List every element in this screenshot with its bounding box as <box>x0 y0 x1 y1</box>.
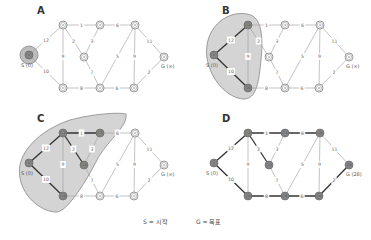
edge-weight-text: 5 <box>301 162 304 167</box>
start-label: S (0) <box>206 62 218 68</box>
edge-weight: 11 <box>146 38 154 45</box>
edge-weight-text: 11 <box>332 147 338 152</box>
edge-weight-text: 8 <box>265 86 268 91</box>
edge-weight: 12 <box>227 145 235 152</box>
node-b1: 10 <box>59 192 67 200</box>
goal-label: G (28) <box>346 171 362 177</box>
edge-weight-text: 7 <box>91 178 94 183</box>
edge-weight-text: 3 <box>276 39 279 44</box>
node-m: ∞ <box>265 53 273 61</box>
edge-weight: 3 <box>89 38 95 45</box>
node-n3: 19 <box>316 129 324 137</box>
node-value: 18 <box>283 194 287 198</box>
node-value: ∞ <box>62 23 65 27</box>
node-value: ∞ <box>134 131 137 135</box>
node-b1: 10 <box>244 192 252 200</box>
node-value: 10 <box>246 194 250 198</box>
panel-label: C <box>37 113 44 124</box>
start-label: S (0) <box>206 170 218 176</box>
node-value: ∞ <box>99 86 102 90</box>
edge-weight-text: 2 <box>148 70 151 75</box>
node-n2: ∞ <box>96 21 104 29</box>
node-m: 14 <box>80 161 88 169</box>
node-value: ∞ <box>62 86 65 90</box>
edge-weight: 8 <box>79 85 85 92</box>
node-s: 0 <box>210 159 218 167</box>
edge-weight-text: 7 <box>276 70 279 75</box>
edge-weight-text: 9 <box>318 162 321 167</box>
node-n1: 12 <box>59 129 67 137</box>
edge-weight-text: 12 <box>43 38 49 43</box>
edge-weight-text: 9 <box>247 54 250 59</box>
edge-weight: 5 <box>300 161 306 168</box>
node-n1: 12 <box>244 21 252 29</box>
edge-weight: 5 <box>115 53 121 60</box>
edge-weight: 9 <box>132 53 138 60</box>
edge-weight-text: 6 <box>116 86 119 91</box>
node-value: ∞ <box>348 55 351 59</box>
node-s: 0 <box>25 51 33 59</box>
edge-weight-text: 12 <box>228 146 234 151</box>
edge-weight-text: 9 <box>62 54 65 59</box>
edge-weight: 6 <box>299 193 305 200</box>
node-n2: 13 <box>96 129 104 137</box>
edge-weight-text: 8 <box>265 194 268 199</box>
node-value: ∞ <box>83 55 86 59</box>
goal-label: G (∞) <box>161 171 175 177</box>
edge-weight-text: 8 <box>80 194 83 199</box>
edge-weight-text: 8 <box>80 86 83 91</box>
node-m: 14 <box>265 161 273 169</box>
node-value: ∞ <box>319 23 322 27</box>
edge-weight-text: 9 <box>133 162 136 167</box>
edge-weight-text: 10 <box>228 177 234 182</box>
edge-weight-text: 2 <box>72 147 75 152</box>
edge-weight: 9 <box>245 161 251 168</box>
edge-weight: 1 <box>79 22 85 29</box>
panel-c: C1210162397856911201213∞1410∞∞∞S (0)G (∞… <box>19 113 174 212</box>
edge-weight: 10 <box>42 176 50 183</box>
edge-weight: 2 <box>331 177 337 184</box>
panel-label: D <box>222 113 230 124</box>
edge-weight-text: 1 <box>80 131 83 136</box>
edge-weight: 12 <box>42 37 50 44</box>
edge-weight-text: 2 <box>333 178 336 183</box>
edge-weight: 7 <box>89 177 95 184</box>
edge-weight-text: 2 <box>257 39 260 44</box>
node-b1: ∞ <box>59 84 67 92</box>
node-b3: ∞ <box>130 84 138 92</box>
edge-weight-text: 2 <box>148 178 151 183</box>
node-b2: ∞ <box>281 84 289 92</box>
edge-weight: 3 <box>274 146 280 153</box>
edge-weight: 6 <box>300 130 306 137</box>
edge-weight: 1 <box>264 22 270 29</box>
node-value: 13 <box>283 131 287 135</box>
edge-weight: 1 <box>79 130 85 137</box>
edge-weight: 6 <box>299 85 305 92</box>
node-n2: 13 <box>281 129 289 137</box>
edge-weight-text: 3 <box>276 147 279 152</box>
edge-weight-text: 10 <box>228 69 234 74</box>
edge-weight: 5 <box>115 161 121 168</box>
edge-weight-text: 7 <box>91 70 94 75</box>
edge-weight-text: 9 <box>318 54 321 59</box>
edge-weight-text: 12 <box>228 38 234 43</box>
edge-weight: 11 <box>146 146 154 153</box>
node-n1: 12 <box>244 129 252 137</box>
node-value: 12 <box>61 131 65 135</box>
edge-weight: 6 <box>114 85 120 92</box>
edge-weight: 3 <box>274 38 280 45</box>
edge-weight: 9 <box>245 53 251 60</box>
edge-weight-text: 6 <box>301 23 304 28</box>
edge-weight-text: 2 <box>333 70 336 75</box>
node-g: ∞ <box>160 53 168 61</box>
edge-weight: 9 <box>60 161 66 168</box>
node-value: 0 <box>28 53 30 57</box>
edge-weight: 2 <box>146 177 152 184</box>
node-value: ∞ <box>318 86 321 90</box>
panel-d: D1210162397856911201213191410182628S (0)… <box>206 113 362 200</box>
edge-weight: 8 <box>264 85 270 92</box>
node-value: 14 <box>82 163 86 167</box>
edge-weight-text: 6 <box>116 194 119 199</box>
edge-weight-text: 3 <box>91 39 94 44</box>
node-b1: 10 <box>244 84 252 92</box>
